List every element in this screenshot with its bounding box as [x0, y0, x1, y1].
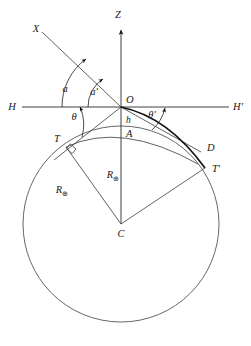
- refraction-geometry-figure: Z X H H' O h A T T' D C a a' θ θ' R⊕ R⊕: [0, 0, 251, 346]
- label-horizon-left: H: [7, 101, 17, 112]
- diagram-canvas: Z X H H' O h A T T' D C a a' θ θ' R⊕ R⊕: [0, 0, 251, 346]
- label-height: h: [126, 115, 131, 125]
- label-ray-x: X: [32, 23, 40, 34]
- label-surface-point: A: [125, 128, 133, 139]
- label-horizon-right: H': [232, 101, 244, 112]
- radius-center-subscript: ⊕: [113, 175, 119, 183]
- atmosphere-arc: [66, 137, 198, 164]
- label-tangent-left: T: [54, 133, 61, 144]
- refracted-path-right: [121, 107, 205, 168]
- label-origin: O: [126, 94, 134, 105]
- label-angle-a-prime: a': [90, 86, 98, 97]
- label-radius-center: R⊕: [106, 169, 119, 183]
- radius-left-subscript: ⊕: [62, 190, 68, 198]
- label-center: C: [117, 228, 125, 239]
- label-tangent-right: T': [212, 163, 221, 174]
- radius-line-left: [66, 147, 121, 224]
- label-radius-left: R⊕: [55, 184, 68, 198]
- tangent-line-left: [54, 107, 121, 160]
- apparent-ray-od: [121, 107, 201, 152]
- label-angle-theta: θ: [71, 111, 76, 122]
- radius-line-right: [121, 168, 205, 224]
- label-angle-a: a: [62, 83, 67, 94]
- incoming-ray-x: [42, 32, 121, 107]
- label-point-d: D: [206, 142, 215, 153]
- angle-arc-theta: [80, 107, 84, 137]
- label-angle-theta-prime: θ': [148, 109, 156, 120]
- label-zenith: Z: [115, 9, 121, 20]
